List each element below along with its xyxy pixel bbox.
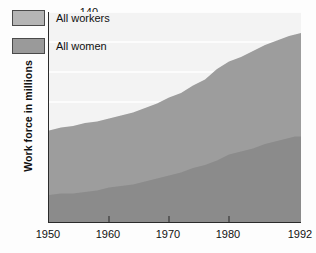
- legend-label-all-women: All women: [56, 40, 107, 52]
- x-tick-label: 1980: [198, 228, 258, 240]
- x-tick-label: 1992: [270, 228, 316, 240]
- legend-label-all-workers: All workers: [56, 12, 110, 24]
- legend-swatch-all-workers: [12, 10, 45, 26]
- x-tick-label: 1970: [138, 228, 198, 240]
- x-tick-label: 1950: [18, 228, 78, 240]
- x-tick-label: 1960: [78, 228, 138, 240]
- legend-item-all-women: All women: [12, 36, 162, 55]
- legend-item-all-workers: All workers: [12, 8, 162, 27]
- chart-figure: Work force in millions 20406080100120140…: [0, 0, 316, 253]
- legend-swatch-all-women: [12, 38, 45, 54]
- chart-legend: All workers All women: [12, 8, 162, 64]
